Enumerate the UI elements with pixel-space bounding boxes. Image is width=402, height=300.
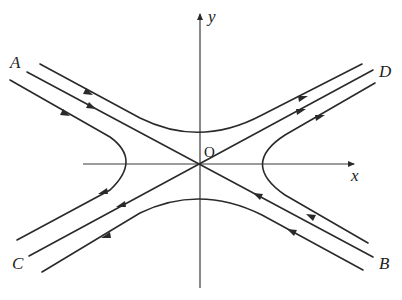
arrow-icon xyxy=(306,214,316,221)
arrow-icon xyxy=(296,109,306,115)
origin-label: O xyxy=(204,144,215,160)
label-b: B xyxy=(379,254,390,273)
arrow-icon xyxy=(315,115,325,121)
arrow-icon xyxy=(298,96,308,102)
arrow-icon xyxy=(116,201,126,207)
arrow-icon xyxy=(253,193,263,200)
label-d: D xyxy=(378,62,392,81)
y-axis-label: y xyxy=(206,7,216,26)
x-axis-label: x xyxy=(350,166,359,185)
left-branch xyxy=(10,80,126,240)
arrow-icon xyxy=(287,229,297,236)
label-c: C xyxy=(12,254,24,273)
arrow-icon xyxy=(98,188,108,194)
label-a: A xyxy=(9,53,21,72)
arrow-icon xyxy=(86,102,96,109)
upper-branch xyxy=(40,64,362,132)
lower-branch xyxy=(42,199,363,272)
phase-portrait: A D C B y x O xyxy=(0,0,402,300)
asymptote-cd xyxy=(29,70,373,256)
